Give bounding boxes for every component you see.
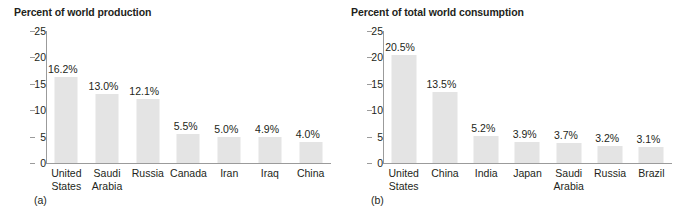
x-axis-category-label: UnitedStates [388,167,418,192]
bar-group: 13.5%China [424,31,465,163]
category-label-line1: Brazil [638,167,664,179]
x-axis-category-label: SaudiArabia [92,167,122,192]
bar-value-label: 5.0% [214,123,238,135]
y-axis-tick-label: 10 [371,104,383,116]
x-axis-category-label: Russia [594,167,626,180]
bar-value-label: 13.0% [89,80,119,92]
x-axis-line-b [383,163,672,164]
x-axis-category-label: China [431,167,458,180]
y-axis-tick [30,137,35,138]
bar-group: 12.1%Russia [127,31,168,163]
bar-value-label: 3.1% [637,133,661,145]
bar [299,142,322,163]
bar-series-a: 16.2%UnitedStates13.0%SaudiArabia12.1%Ru… [46,31,331,163]
y-axis-tick-label: 25 [371,25,383,37]
bar [432,92,457,163]
bar-value-label: 3.9% [513,128,537,140]
bar [258,137,281,163]
panel-label-a: (a) [34,194,47,206]
x-axis-category-label: Canada [170,167,207,180]
bar-value-label: 4.0% [296,128,320,140]
bar [96,94,119,163]
y-axis-tick-label: 15 [371,78,383,90]
y-axis-tick-label: 15 [34,78,46,90]
x-axis-category-label: Iraq [261,167,279,180]
bar-group: 13.0%SaudiArabia [87,31,128,163]
bar-value-label: 3.7% [554,129,578,141]
y-axis-ticks-b: 0510152025 [372,31,383,163]
bar-value-label: 5.5% [174,120,198,132]
bar [515,142,540,163]
bar [391,55,416,163]
x-axis-category-label: India [475,167,498,180]
bar-value-label: 3.2% [595,132,619,144]
bar-group: 3.7%SaudiArabia [548,31,589,163]
bar [556,143,581,163]
bar-group: 4.0%China [290,31,331,163]
bar-group: 3.9%Japan [507,31,548,163]
chart-title-a: Percent of world production [14,6,151,18]
y-axis-tick-label: 20 [371,51,383,63]
y-axis-tick [367,137,372,138]
category-label-line2: States [51,180,81,193]
category-label-line1: Saudi [94,167,121,179]
category-label-line1: Iran [220,167,238,179]
y-axis-tick [367,163,372,164]
category-label-line1: Russia [594,167,626,179]
x-axis-category-label: Iran [220,167,238,180]
category-label-line2: States [388,180,418,193]
bar-group: 5.0%Iran [209,31,250,163]
category-label-line1: Canada [170,167,207,179]
figure-panel-b: Percent of total world consumption 05101… [341,0,682,222]
y-axis-tick-label: 25 [34,25,46,37]
bar [177,134,200,163]
bar-group: 16.2%UnitedStates [46,31,87,163]
category-label-line1: China [431,167,458,179]
chart-title-b: Percent of total world consumption [351,6,524,18]
category-label-line1: India [475,167,498,179]
bar-value-label: 12.1% [129,85,159,97]
x-axis-category-label: UnitedStates [51,167,81,192]
bar [474,136,499,163]
category-label-line2: Arabia [554,180,584,193]
bar-value-label: 20.5% [385,41,415,53]
category-label-line2: Arabia [92,180,122,193]
category-label-line1: United [51,167,81,179]
bar [55,77,78,163]
bar [598,146,623,163]
category-label-line1: China [297,167,324,179]
bar-series-b: 20.5%UnitedStates13.5%China5.2%India3.9%… [383,31,672,163]
bar-group: 5.2%India [466,31,507,163]
panel-label-b: (b) [371,194,384,206]
y-axis-tick [30,163,35,164]
bar-group: 20.5%UnitedStates [383,31,424,163]
bar-value-label: 16.2% [48,63,78,75]
x-axis-category-label: SaudiArabia [554,167,584,192]
bar-value-label: 5.2% [471,122,495,134]
x-axis-category-label: China [297,167,324,180]
x-axis-category-label: Brazil [638,167,664,180]
category-label-line1: United [388,167,418,179]
bar-group: 3.2%Russia [589,31,630,163]
x-axis-category-label: Russia [132,167,164,180]
bar [136,99,159,163]
bar-group: 5.5%Canada [168,31,209,163]
category-label-line1: Russia [132,167,164,179]
bar-value-label: 4.9% [255,123,279,135]
bar-group: 3.1%Brazil [631,31,672,163]
y-axis-tick-label: 20 [34,51,46,63]
bar-group: 4.9%Iraq [250,31,291,163]
y-axis-ticks-a: 0510152025 [35,31,46,163]
x-axis-category-label: Japan [513,167,542,180]
y-axis-tick-label: 10 [34,104,46,116]
category-label-line1: Iraq [261,167,279,179]
plot-area-b: 0510152025 20.5%UnitedStates13.5%China5.… [383,31,672,163]
bar [639,147,664,163]
figure-panel-a: Percent of world production 0510152025 1… [0,0,341,222]
bar [218,137,241,163]
plot-area-a: 0510152025 16.2%UnitedStates13.0%SaudiAr… [46,31,331,163]
bar-value-label: 13.5% [426,78,456,90]
x-axis-line-a [46,163,331,164]
category-label-line1: Japan [513,167,542,179]
category-label-line1: Saudi [555,167,582,179]
